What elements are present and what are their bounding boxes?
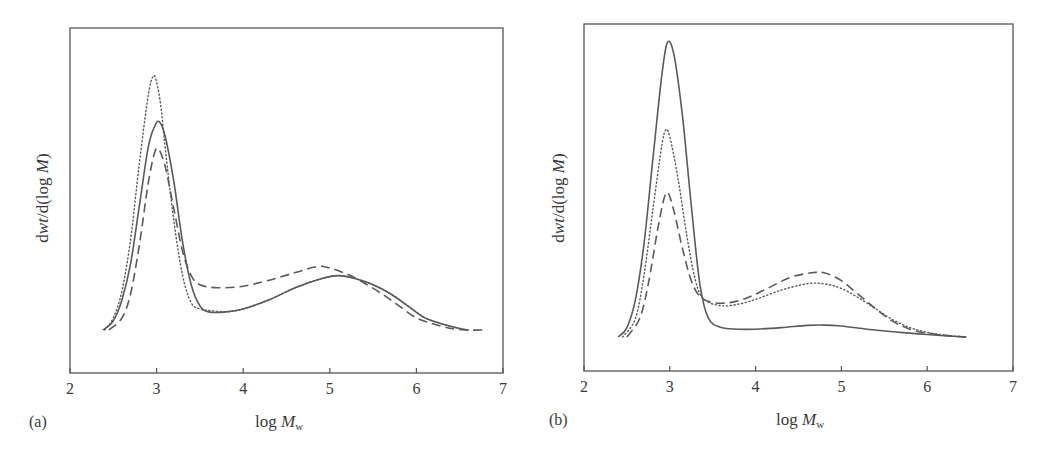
x-tick-label: 5 bbox=[837, 378, 845, 396]
panel-tag-b: (b) bbox=[549, 411, 568, 429]
x-tick-label: 7 bbox=[1009, 378, 1017, 396]
x-tick-label: 6 bbox=[923, 378, 931, 396]
series-line-dashed bbox=[627, 192, 966, 337]
y-axis-label-b: dwt/d(log M) bbox=[549, 113, 569, 283]
x-tick-label: 6 bbox=[412, 380, 420, 398]
x-axis-label-b: log Mw bbox=[776, 410, 824, 430]
y-axis-label-a: dwt/d(log M) bbox=[33, 113, 53, 283]
x-axis-label-a: log Mw bbox=[255, 412, 303, 432]
panel-b: dwt/d(log M) 2 3 4 5 6 7 log Mw (b) bbox=[526, 0, 1052, 453]
x-tick-label: 4 bbox=[239, 380, 247, 398]
series-line-dashed bbox=[109, 148, 487, 330]
x-tick-label: 2 bbox=[66, 380, 74, 398]
panel-a: dwt/d(log M) 2 3 4 5 6 7 log Mw (a) bbox=[0, 0, 526, 453]
series-line-dotted bbox=[623, 129, 966, 337]
plot-area-b bbox=[526, 0, 1052, 453]
plot-area-a bbox=[0, 0, 526, 453]
x-tick-label: 5 bbox=[326, 380, 334, 398]
series-line-solid bbox=[103, 121, 469, 330]
x-tick-label: 3 bbox=[666, 378, 674, 396]
series-line-dotted bbox=[105, 75, 469, 330]
panel-tag-a: (a) bbox=[29, 413, 47, 431]
x-tick-label: 2 bbox=[580, 378, 588, 396]
x-tick-label: 3 bbox=[153, 380, 161, 398]
series-line-solid bbox=[618, 41, 966, 337]
x-tick-label: 4 bbox=[752, 378, 760, 396]
x-tick-label: 7 bbox=[499, 380, 507, 398]
